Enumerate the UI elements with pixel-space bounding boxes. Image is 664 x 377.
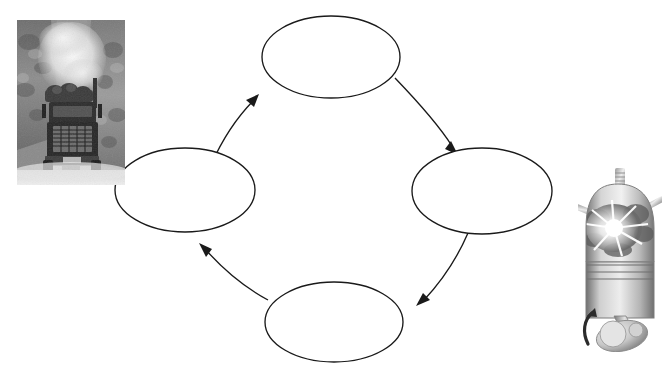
- node-top-shape[interactable]: [262, 16, 400, 98]
- piston: [586, 262, 654, 318]
- node-left-shape[interactable]: [115, 148, 255, 232]
- node-top[interactable]: [262, 16, 400, 98]
- arrow-right-to-bottom-path: [424, 233, 468, 300]
- crankshaft: [593, 316, 650, 352]
- arrow-right-to-bottom: [416, 233, 468, 306]
- node-left[interactable]: [115, 148, 255, 232]
- node-right[interactable]: [412, 148, 552, 234]
- arrow-top-to-right-path: [395, 78, 452, 146]
- arrow-bottom-to-left-path: [206, 250, 268, 300]
- logging-truck-photo: [17, 20, 125, 185]
- node-bottom-shape[interactable]: [265, 282, 403, 362]
- engine-cylinder-illustration: [578, 166, 662, 352]
- arrow-left-to-top-head: [246, 94, 259, 107]
- node-bottom[interactable]: [265, 282, 403, 362]
- combustion-chamber: [584, 184, 654, 262]
- arrow-bottom-to-left: [199, 243, 268, 300]
- arrow-top-to-right: [395, 78, 458, 155]
- node-right-shape[interactable]: [412, 148, 552, 234]
- diagram-page: · · · · · ·: [0, 0, 664, 377]
